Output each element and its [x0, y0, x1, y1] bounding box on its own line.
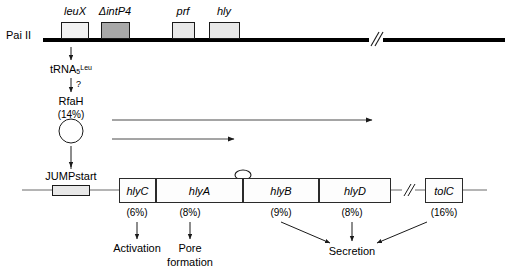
tolc-to-secretion-arrow: [377, 222, 427, 243]
pai-ii-label: Pai II: [6, 30, 31, 41]
operon-percent-hlyd: (8%): [341, 208, 362, 218]
operon-gene-box-tolc[interactable]: tolC: [425, 178, 463, 203]
island-gene-box-prf[interactable]: [172, 22, 195, 39]
operon-gene-box-hlyc[interactable]: hlyC: [119, 178, 156, 203]
function-label-secretion: Secretion: [329, 246, 375, 257]
rfah-percent: (14%): [58, 110, 85, 120]
jumpstart-element-box[interactable]: [52, 185, 90, 196]
trna-superscript: Leu: [80, 64, 92, 71]
operon-percent-hlya: (8%): [179, 208, 200, 218]
operon-gene-label-hlyb: hlyB: [270, 185, 291, 197]
operon-gene-label-hlyc: hlyC: [126, 185, 148, 197]
rfah-label: RfaH: [58, 96, 83, 107]
island-gene-label-dintp4: ΔintP4: [99, 6, 131, 17]
island-gene-label-prf: prf: [177, 6, 190, 17]
island-gene-label-hly: hly: [217, 6, 231, 17]
sequence-break-icon: [369, 32, 383, 47]
operon-percent-tolc: (16%): [431, 208, 458, 218]
operon-break-icon: [402, 183, 415, 197]
operon-gene-label-hlyd: hlyD: [344, 185, 366, 197]
operon-gene-box-hlyb[interactable]: hlyB: [243, 178, 319, 203]
trna-base: tRNA: [50, 63, 76, 75]
function-label-pore-line1: Pore: [178, 243, 201, 254]
operon-gene-box-hlyd[interactable]: hlyD: [319, 178, 391, 203]
function-label-activation: Activation: [113, 243, 161, 254]
trna-label: tRNA5Leu: [50, 64, 92, 75]
jumpstart-label: JUMPstart: [45, 171, 96, 182]
island-gene-label-leux: leuX: [64, 6, 86, 17]
hlyb-to-secretion-arrow: [281, 222, 330, 243]
operon-percent-hlyc: (6%): [126, 208, 147, 218]
island-gene-box-leux[interactable]: [61, 22, 89, 39]
operon-gene-label-tolc: tolC: [434, 185, 454, 197]
rfah-protein-circle: [59, 119, 83, 143]
function-label-pore-line2: formation: [167, 257, 213, 268]
pai-ii-genetic-map: Pai II leuX ΔintP4 prf hly tRNA5Leu ? Rf…: [0, 0, 505, 272]
question-mark-label: ?: [76, 80, 81, 89]
operon-percent-hlyb: (9%): [270, 208, 291, 218]
diagram-vector-layer: [0, 0, 505, 272]
island-gene-box-hly[interactable]: [209, 22, 240, 39]
island-gene-box-dintp4[interactable]: [101, 22, 130, 39]
operon-gene-label-hlya: hlyA: [189, 185, 210, 197]
operon-gene-box-hlya[interactable]: hlyA: [156, 178, 243, 203]
